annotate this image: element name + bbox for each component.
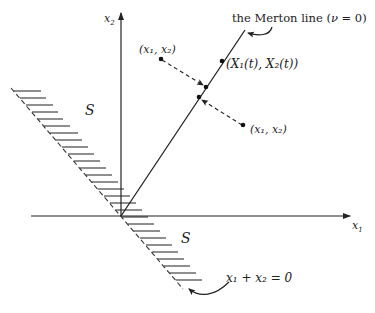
region-s-upper-label: S bbox=[85, 102, 95, 118]
projection-arrow-upper bbox=[162, 60, 203, 85]
x1-axis-label: x1 bbox=[352, 219, 363, 234]
point-on-line bbox=[220, 59, 225, 64]
point-projection-lower bbox=[197, 95, 202, 100]
region-s-lower-label: S bbox=[181, 230, 191, 246]
point-projection-upper bbox=[204, 85, 209, 90]
x2-axis-label: x2 bbox=[104, 12, 115, 27]
point-upper-left-label: (x₁, x₂) bbox=[139, 43, 176, 56]
point-lower-right-label: (x₁, x₂) bbox=[250, 123, 287, 136]
merton-pointer-arrow bbox=[248, 27, 272, 35]
point-lower-right bbox=[241, 123, 246, 128]
boundary-pointer-arrow bbox=[189, 282, 229, 294]
merton-line-label: the Merton line (ν = 0) bbox=[232, 11, 367, 25]
merton-line-diagram: x2 x1 the Merton line (ν = 0) (x₁, x₂) (… bbox=[0, 0, 375, 313]
point-on-line-label: (X₁(t), X₂(t)) bbox=[226, 57, 298, 71]
boundary-label: x₁ + x₂ = 0 bbox=[226, 271, 293, 285]
boundary-line bbox=[11, 88, 183, 289]
point-upper-left bbox=[159, 57, 164, 62]
projection-arrow-lower bbox=[202, 100, 242, 125]
hatched-region-s bbox=[14, 91, 202, 280]
